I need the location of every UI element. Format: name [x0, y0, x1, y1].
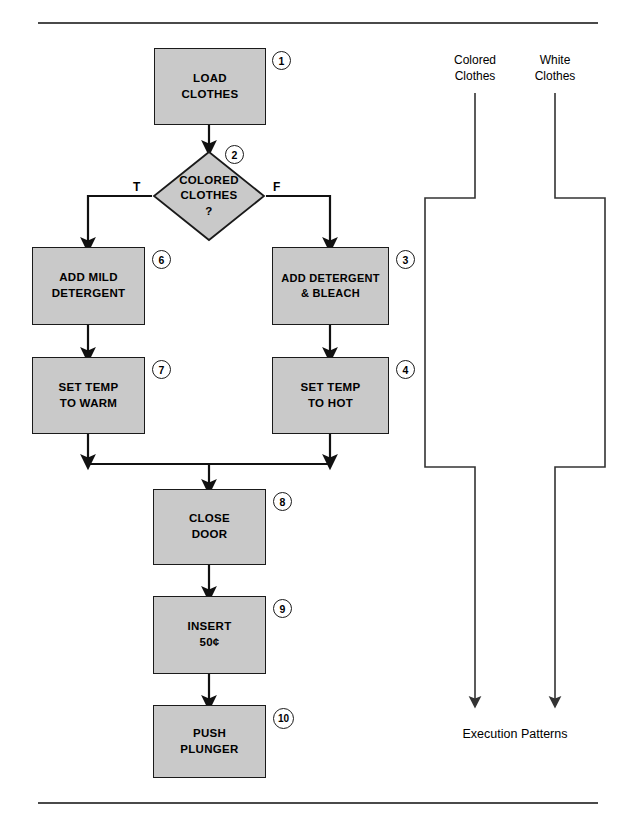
- exec-caption-colored-line1: Colored: [454, 53, 496, 67]
- node-close-door[interactable]: CLOSE DOOR: [153, 489, 266, 565]
- node-set-temp-hot-line2: TO HOT: [308, 396, 353, 412]
- diamond-shape: [152, 150, 266, 242]
- node-push-plunger[interactable]: PUSH PLUNGER: [153, 705, 266, 778]
- node-add-detergent-bleach-line2: & BLEACH: [301, 286, 360, 301]
- badge-step-9: 9: [273, 599, 292, 618]
- branch-label-true: T: [133, 180, 140, 194]
- node-load-clothes-line2: CLOTHES: [181, 87, 238, 103]
- exec-caption-white-clothes: White Clothes: [500, 52, 610, 84]
- node-colored-clothes-decision[interactable]: COLORED CLOTHES ?: [152, 150, 266, 242]
- badge-step-7: 7: [152, 360, 171, 379]
- exec-caption-colored-line2: Clothes: [455, 69, 496, 83]
- edge-decision-false-to-bleach: [266, 196, 330, 245]
- node-push-plunger-line1: PUSH: [193, 726, 226, 742]
- badge-step-4: 4: [396, 360, 415, 379]
- node-insert-coin-line1: INSERT: [188, 619, 232, 635]
- edge-decision-true-to-mild: [88, 196, 152, 245]
- exec-caption-white-line2: Clothes: [535, 69, 576, 83]
- badge-step-6: 6: [152, 250, 171, 269]
- badge-step-1: 1: [272, 51, 291, 70]
- node-add-mild-detergent[interactable]: ADD MILD DETERGENT: [32, 247, 145, 325]
- node-add-detergent-bleach[interactable]: ADD DETERGENT & BLEACH: [272, 247, 389, 325]
- exec-path-white: [555, 93, 605, 702]
- node-set-temp-hot-line1: SET TEMP: [301, 380, 361, 396]
- badge-step-3: 3: [396, 250, 415, 269]
- node-add-mild-detergent-line1: ADD MILD: [59, 270, 118, 286]
- node-close-door-line2: DOOR: [192, 527, 228, 543]
- node-close-door-line1: CLOSE: [189, 511, 230, 527]
- node-set-temp-warm-line2: TO WARM: [60, 396, 117, 412]
- execution-patterns-title: Execution Patterns: [415, 727, 615, 741]
- node-load-clothes-line1: LOAD: [193, 71, 227, 87]
- badge-step-10: 10: [273, 708, 294, 729]
- node-set-temp-hot[interactable]: SET TEMP TO HOT: [272, 357, 389, 434]
- node-insert-coin[interactable]: INSERT 50¢: [153, 596, 266, 674]
- exec-caption-white-line1: White: [540, 53, 571, 67]
- badge-step-2: 2: [225, 145, 244, 164]
- badge-step-8: 8: [273, 492, 292, 511]
- node-add-mild-detergent-line2: DETERGENT: [52, 286, 126, 302]
- branch-label-false: F: [273, 180, 280, 194]
- node-push-plunger-line2: PLUNGER: [180, 742, 238, 758]
- diagram-page: LOAD CLOTHES 1 COLORED CLOTHES ? 2 T F A…: [0, 0, 635, 824]
- node-set-temp-warm-line1: SET TEMP: [59, 380, 119, 396]
- node-insert-coin-line2: 50¢: [199, 635, 219, 651]
- node-load-clothes[interactable]: LOAD CLOTHES: [154, 48, 266, 125]
- node-set-temp-warm[interactable]: SET TEMP TO WARM: [32, 357, 145, 434]
- exec-path-colored: [425, 93, 475, 702]
- node-add-detergent-bleach-line1: ADD DETERGENT: [281, 271, 380, 286]
